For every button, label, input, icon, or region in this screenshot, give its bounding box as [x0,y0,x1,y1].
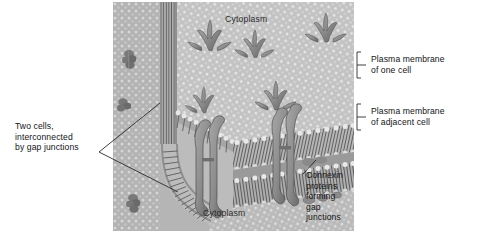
bracket-plasma-membrane-one [357,52,366,78]
bracket-plasma-membrane-adjacent [357,104,366,130]
gap-junction-figure: Cytoplasm Cytoplasm Two cells, interconn… [0,0,481,245]
plasma-membrane-adjacent-cell-label: Plasma membrane of adjacent cell [371,106,477,127]
plasma-membrane-one-cell-label: Plasma membrane of one cell [371,54,477,75]
cytoplasm-label-bottom: Cytoplasm [203,208,245,218]
bilayer-cut-edge-vertical [160,2,177,144]
cytoplasm-label-top: Cytoplasm [225,14,267,24]
two-cells-label: Two cells, interconnected by gap junctio… [15,121,107,153]
connexin-proteins-label: Connexin proteins forming gap junctions [306,170,386,223]
